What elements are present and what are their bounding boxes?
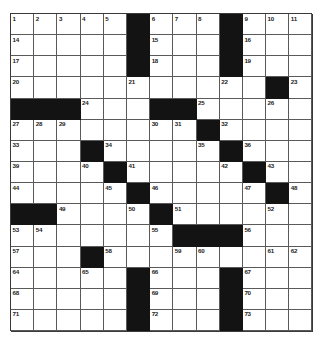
crossword-cell[interactable] xyxy=(289,162,312,183)
crossword-cell[interactable]: 73 xyxy=(243,310,266,331)
crossword-cell[interactable] xyxy=(197,204,220,225)
crossword-cell[interactable] xyxy=(81,35,104,56)
crossword-cell[interactable] xyxy=(57,225,80,246)
crossword-cell[interactable]: 33 xyxy=(11,141,34,162)
crossword-cell[interactable] xyxy=(173,268,196,289)
crossword-cell[interactable]: 14 xyxy=(11,35,34,56)
crossword-cell[interactable] xyxy=(266,35,289,56)
crossword-cell[interactable] xyxy=(81,289,104,310)
crossword-cell[interactable]: 7 xyxy=(173,14,196,35)
crossword-cell[interactable]: 66 xyxy=(150,268,173,289)
crossword-cell[interactable] xyxy=(34,162,57,183)
crossword-cell[interactable] xyxy=(57,56,80,77)
crossword-cell[interactable]: 60 xyxy=(197,247,220,268)
crossword-cell[interactable]: 65 xyxy=(81,268,104,289)
crossword-grid[interactable]: 1234567891011141516171819202122232425262… xyxy=(10,13,312,331)
crossword-cell[interactable] xyxy=(289,120,312,141)
crossword-cell[interactable]: 25 xyxy=(197,99,220,120)
crossword-cell[interactable] xyxy=(173,56,196,77)
crossword-cell[interactable] xyxy=(266,289,289,310)
crossword-cell[interactable] xyxy=(57,247,80,268)
crossword-cell[interactable]: 64 xyxy=(11,268,34,289)
crossword-cell[interactable] xyxy=(127,99,150,120)
crossword-cell[interactable]: 28 xyxy=(34,120,57,141)
crossword-cell[interactable] xyxy=(81,310,104,331)
crossword-cell[interactable] xyxy=(104,35,127,56)
crossword-cell[interactable] xyxy=(220,183,243,204)
crossword-cell[interactable] xyxy=(173,162,196,183)
crossword-cell[interactable] xyxy=(220,247,243,268)
crossword-cell[interactable] xyxy=(243,77,266,98)
crossword-cell[interactable]: 39 xyxy=(11,162,34,183)
crossword-cell[interactable] xyxy=(34,35,57,56)
crossword-cell[interactable] xyxy=(197,310,220,331)
crossword-cell[interactable] xyxy=(173,310,196,331)
crossword-cell[interactable]: 21 xyxy=(127,77,150,98)
crossword-cell[interactable]: 68 xyxy=(11,289,34,310)
crossword-cell[interactable]: 47 xyxy=(243,183,266,204)
crossword-cell[interactable]: 69 xyxy=(150,289,173,310)
crossword-cell[interactable] xyxy=(34,183,57,204)
crossword-cell[interactable] xyxy=(197,289,220,310)
crossword-cell[interactable] xyxy=(289,310,312,331)
crossword-cell[interactable] xyxy=(81,77,104,98)
crossword-cell[interactable]: 24 xyxy=(81,99,104,120)
crossword-cell[interactable] xyxy=(289,56,312,77)
crossword-cell[interactable]: 53 xyxy=(11,225,34,246)
crossword-cell[interactable]: 19 xyxy=(243,56,266,77)
crossword-cell[interactable]: 54 xyxy=(34,225,57,246)
crossword-cell[interactable] xyxy=(104,225,127,246)
crossword-cell[interactable] xyxy=(57,162,80,183)
crossword-cell[interactable] xyxy=(104,268,127,289)
crossword-cell[interactable] xyxy=(150,141,173,162)
crossword-cell[interactable] xyxy=(266,310,289,331)
crossword-cell[interactable] xyxy=(220,99,243,120)
crossword-cell[interactable] xyxy=(81,183,104,204)
crossword-cell[interactable] xyxy=(104,310,127,331)
crossword-cell[interactable] xyxy=(197,183,220,204)
crossword-cell[interactable] xyxy=(289,141,312,162)
crossword-cell[interactable]: 18 xyxy=(150,56,173,77)
crossword-cell[interactable]: 35 xyxy=(197,141,220,162)
crossword-cell[interactable] xyxy=(197,162,220,183)
crossword-cell[interactable]: 4 xyxy=(81,14,104,35)
crossword-cell[interactable]: 67 xyxy=(243,268,266,289)
crossword-cell[interactable] xyxy=(34,77,57,98)
crossword-cell[interactable] xyxy=(243,120,266,141)
crossword-cell[interactable] xyxy=(81,225,104,246)
crossword-cell[interactable] xyxy=(34,141,57,162)
crossword-cell[interactable] xyxy=(104,289,127,310)
crossword-cell[interactable] xyxy=(197,268,220,289)
crossword-cell[interactable] xyxy=(173,141,196,162)
crossword-cell[interactable] xyxy=(57,289,80,310)
crossword-cell[interactable] xyxy=(34,247,57,268)
crossword-cell[interactable] xyxy=(57,77,80,98)
crossword-cell[interactable]: 16 xyxy=(243,35,266,56)
crossword-cell[interactable] xyxy=(289,35,312,56)
crossword-cell[interactable]: 44 xyxy=(11,183,34,204)
crossword-cell[interactable]: 51 xyxy=(173,204,196,225)
crossword-cell[interactable]: 20 xyxy=(11,77,34,98)
crossword-cell[interactable]: 30 xyxy=(150,120,173,141)
crossword-cell[interactable]: 29 xyxy=(57,120,80,141)
crossword-cell[interactable] xyxy=(34,310,57,331)
crossword-cell[interactable] xyxy=(266,120,289,141)
crossword-cell[interactable]: 40 xyxy=(81,162,104,183)
crossword-cell[interactable] xyxy=(104,56,127,77)
crossword-cell[interactable] xyxy=(104,77,127,98)
crossword-cell[interactable]: 32 xyxy=(220,120,243,141)
crossword-cell[interactable]: 15 xyxy=(150,35,173,56)
crossword-cell[interactable]: 45 xyxy=(104,183,127,204)
crossword-cell[interactable] xyxy=(289,99,312,120)
crossword-cell[interactable]: 6 xyxy=(150,14,173,35)
crossword-cell[interactable] xyxy=(173,35,196,56)
crossword-cell[interactable]: 5 xyxy=(104,14,127,35)
crossword-cell[interactable] xyxy=(127,225,150,246)
crossword-cell[interactable] xyxy=(220,204,243,225)
crossword-cell[interactable]: 41 xyxy=(127,162,150,183)
crossword-cell[interactable]: 1 xyxy=(11,14,34,35)
crossword-cell[interactable] xyxy=(81,56,104,77)
crossword-cell[interactable] xyxy=(104,120,127,141)
crossword-cell[interactable] xyxy=(127,247,150,268)
crossword-cell[interactable]: 59 xyxy=(173,247,196,268)
